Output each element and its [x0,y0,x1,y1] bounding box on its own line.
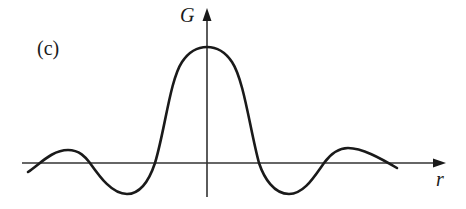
x-axis-label: r [436,168,444,191]
x-axis-arrow-icon [433,159,446,168]
y-axis-arrow-icon [203,8,212,21]
plot-area [0,0,466,209]
figure: (c) G r [0,0,466,209]
curve-g-of-r [28,47,397,194]
panel-label: (c) [37,37,59,60]
y-axis-label: G [180,4,194,27]
